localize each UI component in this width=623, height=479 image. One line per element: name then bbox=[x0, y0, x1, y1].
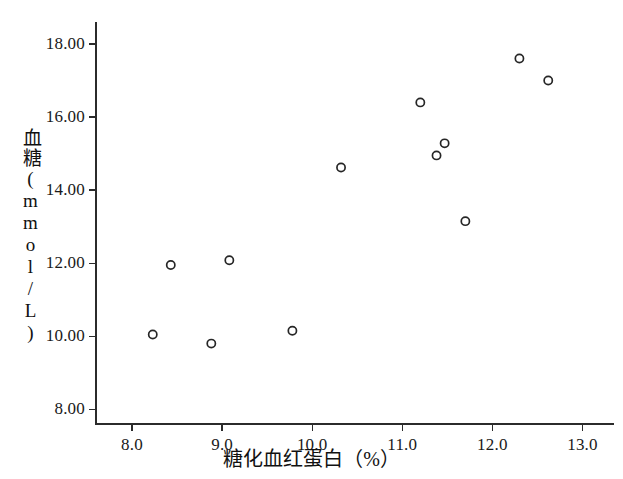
y-axis-title: 血糖(mmol/L) bbox=[10, 128, 40, 344]
data-point bbox=[432, 151, 440, 159]
y-tick-label: 16.00 bbox=[46, 107, 85, 127]
data-point bbox=[544, 76, 552, 84]
axis-lines bbox=[96, 22, 614, 424]
tick-marks bbox=[89, 44, 582, 431]
y-tick-label: 8.00 bbox=[54, 399, 85, 419]
y-tick-label: 14.00 bbox=[46, 180, 85, 200]
data-point bbox=[288, 327, 296, 335]
y-tick-label: 10.00 bbox=[46, 326, 85, 346]
data-point bbox=[441, 139, 449, 147]
data-point bbox=[416, 98, 424, 106]
data-point bbox=[461, 217, 469, 225]
x-axis-title: 糖化血红蛋白（%） bbox=[0, 443, 623, 472]
y-tick-label: 12.00 bbox=[46, 253, 85, 273]
y-tick-label: 18.00 bbox=[46, 34, 85, 54]
scatter-chart: 8.0010.0012.0014.0016.0018.00 8.09.010.0… bbox=[0, 0, 623, 479]
data-points bbox=[149, 54, 553, 347]
data-point bbox=[207, 340, 215, 348]
data-point bbox=[149, 330, 157, 338]
data-point bbox=[167, 261, 175, 269]
data-point bbox=[225, 256, 233, 264]
data-point bbox=[337, 163, 345, 171]
data-point bbox=[515, 54, 523, 62]
plot-area bbox=[0, 0, 623, 479]
